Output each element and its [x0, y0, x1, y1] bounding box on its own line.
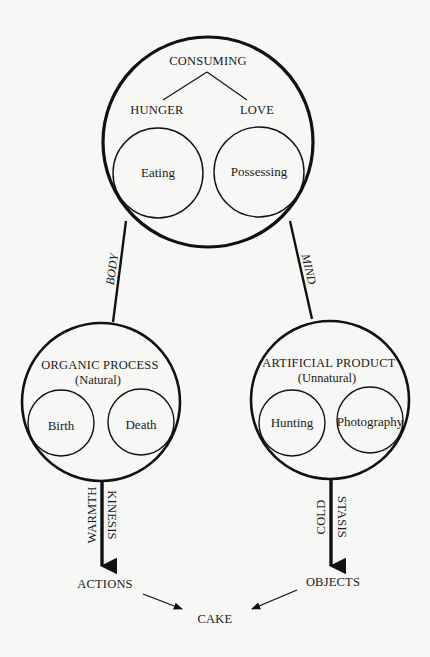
objects-to-cake-arrow: [252, 590, 297, 609]
actions-to-cake-arrow: [143, 594, 182, 609]
possessing-label: Possessing: [231, 164, 288, 179]
cake-label: CAKE: [198, 612, 233, 626]
consuming-circle: [103, 37, 313, 247]
organic-process-node: ORGANIC PROCESS (Natural) Birth Death: [22, 323, 180, 481]
cake-convergence: CAKE: [143, 590, 297, 626]
unnatural-subtitle: (Unnatural): [298, 371, 356, 385]
objects-flow: COLD STASIS OBJECTS: [306, 479, 360, 589]
artificial-product-node: ARTIFICIAL PRODUCT (Unnatural) Hunting P…: [251, 321, 409, 479]
artificial-product-circle: [251, 321, 409, 479]
stasis-label: STASIS: [335, 496, 349, 538]
concept-diagram: CONSUMING HUNGER LOVE Eating Possessing …: [0, 0, 430, 657]
natural-subtitle: (Natural): [75, 373, 121, 387]
organic-process-circle: [22, 323, 180, 481]
branch-line-hunger: [163, 72, 207, 100]
photography-label: Photography: [337, 414, 404, 429]
hunting-label: Hunting: [271, 415, 314, 430]
objects-label: OBJECTS: [306, 575, 360, 589]
actions-flow: WARMTH KINESIS ACTIONS: [77, 481, 133, 591]
consuming-title: CONSUMING: [169, 54, 247, 68]
warmth-label: WARMTH: [85, 487, 99, 544]
love-label: LOVE: [240, 103, 274, 117]
consuming-node: CONSUMING HUNGER LOVE Eating Possessing: [103, 37, 313, 247]
artificial-product-title: ARTIFICIAL PRODUCT: [262, 356, 395, 370]
death-label: Death: [125, 417, 157, 432]
kinesis-label: KINESIS: [105, 490, 119, 539]
cold-label: COLD: [314, 500, 328, 535]
connectors: BODY MIND: [103, 221, 319, 322]
hunger-label: HUNGER: [130, 103, 184, 117]
organic-process-title: ORGANIC PROCESS: [41, 358, 158, 372]
birth-label: Birth: [48, 418, 75, 433]
actions-label: ACTIONS: [77, 577, 133, 591]
branch-line-love: [207, 72, 247, 100]
eating-label: Eating: [141, 165, 175, 180]
